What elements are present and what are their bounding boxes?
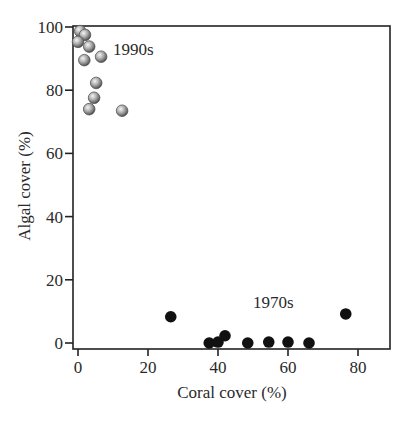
y-tick-label: 0	[55, 334, 64, 353]
data-point	[263, 336, 275, 348]
y-axis-title: Algal cover (%)	[15, 131, 34, 241]
data-point	[303, 337, 315, 349]
series-1990s	[72, 25, 128, 116]
data-point	[242, 337, 254, 349]
y-tick-label: 100	[38, 18, 64, 37]
y-tick-label: 60	[46, 144, 63, 163]
x-tick-label: 40	[210, 358, 227, 377]
annotation-1990s: 1990s	[113, 40, 154, 59]
data-point	[90, 77, 102, 89]
data-point	[83, 103, 95, 115]
data-point	[79, 54, 91, 66]
annotations: 1990s1970s	[113, 40, 294, 312]
y-tick-label: 40	[46, 208, 63, 227]
x-axis: 020406080	[74, 349, 367, 377]
y-tick-label: 20	[46, 271, 63, 290]
data-point	[282, 336, 294, 348]
data-points	[72, 25, 351, 348]
data-point	[340, 308, 352, 320]
series-1970s	[165, 308, 352, 349]
x-tick-label: 20	[140, 358, 157, 377]
y-tick-label: 80	[46, 81, 63, 100]
data-point	[95, 51, 107, 63]
x-tick-label: 60	[280, 358, 297, 377]
data-point	[88, 92, 100, 104]
x-tick-label: 80	[350, 358, 367, 377]
annotation-1970s: 1970s	[253, 293, 294, 312]
x-axis-title: Coral cover (%)	[177, 383, 287, 402]
scatter-chart: 020406080100 020406080 1990s1970s Coral …	[0, 0, 409, 421]
y-axis: 020406080100	[38, 18, 74, 353]
data-point	[116, 105, 128, 117]
data-point	[165, 311, 177, 323]
data-point	[219, 330, 231, 342]
x-tick-label: 0	[74, 358, 83, 377]
data-point	[83, 41, 95, 53]
data-point	[72, 36, 84, 48]
plot-border	[73, 26, 390, 349]
plot-area	[73, 26, 390, 349]
